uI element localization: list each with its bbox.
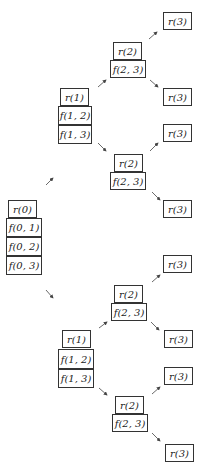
node-n-r2-b: r(2) — [114, 154, 143, 172]
node-n-r3-g: r(3) — [164, 367, 193, 385]
node-n-f23-c: f(2, 3) — [111, 303, 147, 321]
node-n-r3-d: r(3) — [163, 200, 192, 218]
node-n-r3-f: r(3) — [164, 330, 193, 348]
arrow-icon — [152, 387, 160, 394]
node-n-r3-e: r(3) — [163, 255, 192, 273]
node-n-f13-a: f(1, 3) — [58, 125, 92, 144]
arrow-icon — [152, 192, 160, 200]
node-n-r1-b: r(1) — [62, 330, 91, 348]
node-n-f23-a: f(2, 3) — [110, 60, 146, 78]
node-n-f23-b: f(2, 3) — [110, 172, 146, 190]
node-n-r3-a: r(3) — [163, 12, 192, 30]
node-n-r2-d: r(2) — [115, 396, 144, 414]
arrow-icon — [150, 143, 158, 151]
arrow-icon — [149, 32, 157, 39]
node-n-r1-a: r(1) — [60, 88, 89, 106]
node-n-r3-c: r(3) — [163, 124, 192, 142]
node-n-f12-a: f(1, 2) — [58, 106, 92, 125]
arrow-icon — [99, 322, 107, 328]
arrow-icon — [46, 178, 53, 185]
arrow-icon — [99, 388, 107, 395]
node-n-f03: f(0, 3) — [6, 256, 42, 275]
node-n-f01: f(0, 1) — [6, 218, 42, 237]
node-n-r0: r(0) — [8, 200, 37, 218]
node-n-r3-b: r(3) — [163, 88, 192, 106]
arrow-icon — [98, 80, 106, 87]
arrow-icon — [46, 290, 53, 298]
node-n-r2-a: r(2) — [113, 42, 142, 60]
node-n-f23-d: f(2, 3) — [112, 414, 148, 432]
arrow-icon — [151, 322, 159, 330]
node-n-f02: f(0, 2) — [6, 237, 42, 256]
arrow-icon — [98, 143, 106, 151]
arrow-icon — [150, 80, 158, 87]
node-n-f12-b: f(1, 2) — [58, 349, 94, 369]
arrow-icon — [152, 275, 160, 282]
node-n-r2-c: r(2) — [114, 285, 143, 303]
node-n-r3-h: r(3) — [165, 444, 194, 462]
arrow-icon — [152, 433, 160, 441]
node-n-f13-b: f(1, 3) — [58, 369, 94, 388]
